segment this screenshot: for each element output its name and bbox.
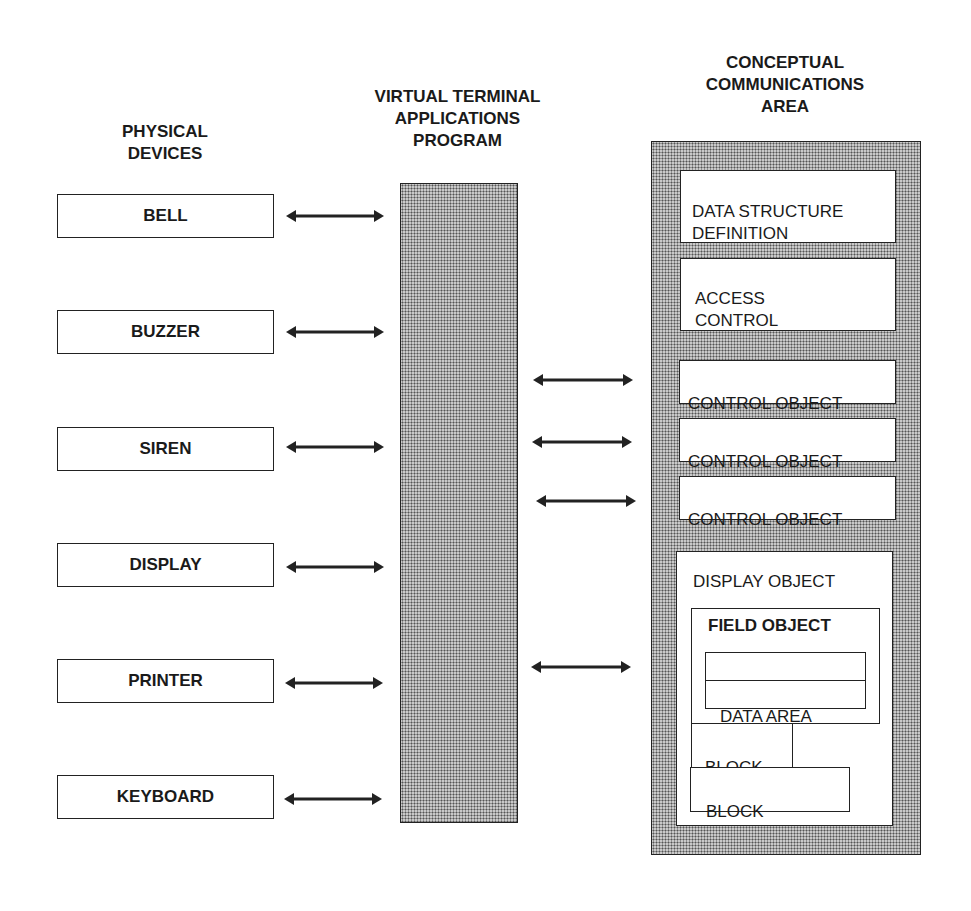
device-buzzer: BUZZER [57,310,274,354]
bidirectional-arrow-icon [533,373,633,387]
control-object-box: CONTROL OBJECT [679,360,896,404]
device-label: KEYBOARD [117,787,214,807]
bidirectional-arrow-icon [532,435,632,449]
access-control-box: ACCESS CONTROL [680,258,896,331]
data-structure-definition-box: DATA STRUCTURE DEFINITION [680,170,896,243]
heading-physical-devices: PHYSICAL DEVICES [90,121,240,165]
control-object-label: CONTROL OBJECT [688,452,842,471]
control-object-box: CONTROL OBJECT [679,418,896,462]
bidirectional-arrow-icon [286,440,384,454]
device-label: PRINTER [128,671,203,691]
device-display: DISPLAY [57,543,274,587]
data-area-box: DATA AREA [705,680,866,709]
display-object-label: DISPLAY OBJECT [693,571,835,593]
block-box: BLOCK [691,723,793,768]
data-structure-definition-label: DATA STRUCTURE DEFINITION [692,202,843,243]
bidirectional-arrow-icon [284,792,382,806]
block-box: BLOCK [690,767,850,812]
device-bell: BELL [57,194,274,238]
device-label: SIREN [140,439,192,459]
device-label: DISPLAY [129,555,201,575]
bidirectional-arrow-icon [285,676,383,690]
field-object-label: FIELD OBJECT [708,615,831,637]
bidirectional-arrow-icon [286,325,384,339]
heading-conceptual-communications-area: CONCEPTUAL COMMUNICATIONS AREA [685,52,885,118]
virtual-terminal-program-bar [400,183,518,823]
access-control-label: ACCESS CONTROL [695,289,778,330]
control-object-label: CONTROL OBJECT [688,394,842,413]
device-label: BELL [143,206,187,226]
device-printer: PRINTER [57,659,274,703]
device-siren: SIREN [57,427,274,471]
control-object-box: CONTROL OBJECT [679,476,896,520]
bidirectional-arrow-icon [536,494,636,508]
heading-virtual-terminal-applications-program: VIRTUAL TERMINAL APPLICATIONS PROGRAM [330,86,585,152]
device-keyboard: KEYBOARD [57,775,274,819]
control-object-label: CONTROL OBJECT [688,510,842,529]
device-label: BUZZER [131,322,200,342]
erco-box: ERCO [705,652,866,681]
bidirectional-arrow-icon [286,209,384,223]
bidirectional-arrow-icon [531,660,631,674]
bidirectional-arrow-icon [286,560,384,574]
block-label: BLOCK [706,802,764,821]
